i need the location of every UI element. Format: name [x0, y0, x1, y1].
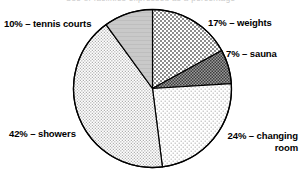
slice-label-changing-room: 24% – changing room	[228, 130, 298, 153]
slice-label-weights: 17% – weights	[208, 17, 272, 29]
slice-label-showers: 42% – showers	[9, 128, 76, 140]
pie-slices	[73, 10, 231, 168]
slice-label-tennis-courts: 10% – tennis courts	[4, 18, 91, 30]
pie-slice-changing-room	[153, 84, 232, 167]
slice-label-sauna: 7% – sauna	[226, 48, 277, 60]
pie-chart-figure: Use of facilities expressed as a percent…	[0, 0, 301, 170]
